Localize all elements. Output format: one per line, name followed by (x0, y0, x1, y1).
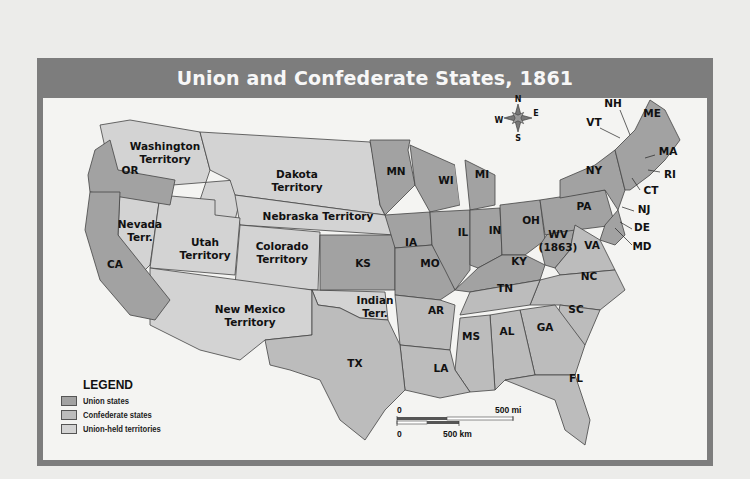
label-nc: NC (581, 270, 598, 282)
label-utah-1: Utah (191, 236, 219, 248)
label-nj: NJ (638, 203, 651, 215)
legend-label-confederate: Confederate states (83, 410, 152, 420)
label-in: IN (489, 224, 502, 236)
label-washington-1: Washington (130, 140, 200, 152)
label-nevada-2: Terr. (127, 231, 153, 243)
label-washington-2: Territory (139, 153, 190, 165)
label-ga: GA (537, 321, 555, 333)
label-mo: MO (420, 257, 439, 269)
label-newmexico-1: New Mexico (215, 303, 286, 315)
label-mn: MN (386, 165, 405, 177)
label-ar: AR (428, 304, 444, 316)
legend-item-confederate: Confederate states (61, 408, 201, 421)
label-fl: FL (569, 372, 583, 384)
map-panel: Washington Territory OR Dakota Territory… (43, 98, 707, 460)
region-ar (395, 295, 455, 350)
label-indian-1: Indian (356, 294, 393, 306)
label-tn: TN (497, 282, 513, 294)
scale-bar-graphic (395, 416, 525, 430)
label-ny: NY (586, 164, 603, 176)
label-vt: VT (586, 116, 602, 128)
label-wv-1: WV (548, 228, 569, 240)
label-ri: RI (664, 168, 676, 180)
label-nebraska: Nebraska Territory (263, 210, 374, 222)
label-al: AL (500, 325, 515, 337)
legend-item-territories: Union-held territories (61, 422, 201, 435)
label-nevada-1: Nevada (118, 218, 162, 230)
label-mi: MI (475, 168, 489, 180)
legend: LEGEND Union states Confederate states U… (61, 378, 201, 436)
swatch-confederate (61, 410, 77, 420)
label-de: DE (634, 221, 650, 233)
label-ma: MA (659, 145, 678, 157)
label-ca: CA (107, 258, 124, 270)
compass-e: E (533, 109, 538, 118)
label-wi: WI (438, 174, 454, 186)
label-il: IL (458, 226, 469, 238)
label-colorado-2: Territory (256, 253, 307, 265)
label-indian-2: Terr. (362, 307, 388, 319)
scale-km-zero: 0 (397, 429, 402, 439)
label-md: MD (632, 240, 651, 252)
label-ky: KY (511, 255, 527, 267)
label-sc: SC (568, 303, 584, 315)
label-me: ME (643, 107, 661, 119)
compass-rose-icon: N S E W (495, 95, 539, 143)
label-newmexico-2: Territory (224, 316, 275, 328)
scale-mi-label: 500 mi (495, 405, 521, 415)
label-ks: KS (355, 257, 371, 269)
swatch-union (61, 396, 77, 406)
compass-w: W (495, 116, 504, 125)
legend-label-union: Union states (83, 396, 129, 406)
label-oh: OH (522, 214, 540, 226)
scale-mi-zero: 0 (397, 405, 402, 415)
label-pa: PA (577, 200, 593, 212)
label-dakota-2: Territory (271, 181, 322, 193)
scale-bar: 0 500 mi 0 500 km (395, 405, 525, 455)
scale-km-label: 500 km (443, 429, 472, 439)
map-frame: Union and Confederate States, 1861 (37, 58, 713, 466)
label-tx: TX (347, 357, 362, 369)
legend-title: LEGEND (83, 378, 201, 392)
label-ms: MS (462, 330, 480, 342)
label-wv-2: (1863) (539, 241, 578, 253)
label-va: VA (584, 239, 600, 251)
legend-label-territories: Union-held territories (83, 424, 161, 434)
label-nh: NH (604, 97, 622, 109)
label-or: OR (121, 164, 138, 176)
swatch-territories (61, 424, 77, 434)
label-dakota-1: Dakota (276, 168, 318, 180)
legend-item-union: Union states (61, 394, 201, 407)
label-ct: CT (644, 184, 660, 196)
compass-n: N (515, 95, 522, 104)
label-utah-2: Territory (179, 249, 230, 261)
compass-s: S (515, 134, 521, 143)
label-ia: IA (405, 236, 418, 248)
label-la: LA (434, 362, 450, 374)
label-colorado-1: Colorado (256, 240, 309, 252)
